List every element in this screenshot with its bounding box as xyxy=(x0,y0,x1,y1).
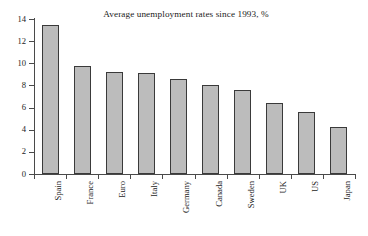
x-tick-label: Canada xyxy=(215,181,224,207)
x-tick-label: France xyxy=(86,181,95,204)
x-tick-mark xyxy=(130,175,131,179)
y-tick-mark xyxy=(29,63,34,64)
y-tick-mark xyxy=(29,130,34,131)
x-tick-mark xyxy=(66,175,67,179)
x-tick-label: Spain xyxy=(54,181,63,201)
x-tick-mark xyxy=(162,175,163,179)
bar xyxy=(234,90,251,174)
x-tick-label: US xyxy=(311,181,320,192)
bar xyxy=(298,112,315,174)
y-tick-label: 0 xyxy=(22,170,26,179)
x-tick-mark xyxy=(323,175,324,179)
y-tick-label: 2 xyxy=(22,147,26,156)
x-tick-label: Sweden xyxy=(247,181,256,208)
y-tick-label: 4 xyxy=(22,125,26,134)
y-tick-label: 14 xyxy=(17,15,26,24)
bar xyxy=(330,127,347,174)
bar-chart: Average unemployment rates since 1993, %… xyxy=(0,0,368,236)
y-axis-line xyxy=(34,18,35,175)
x-tick-mark xyxy=(355,175,356,179)
y-tick-mark xyxy=(29,41,34,42)
x-tick-mark xyxy=(98,175,99,179)
y-tick-mark xyxy=(29,108,34,109)
x-tick-mark xyxy=(34,175,35,179)
x-tick-label: UK xyxy=(279,181,288,193)
y-tick-mark xyxy=(29,85,34,86)
bar xyxy=(106,72,123,174)
y-tick-mark xyxy=(29,19,34,20)
bar xyxy=(202,85,219,174)
bar xyxy=(138,73,155,174)
x-tick-label: Italy xyxy=(150,181,159,197)
bar xyxy=(266,103,283,174)
bar xyxy=(42,25,59,174)
y-tick-label: 6 xyxy=(22,103,26,112)
x-tick-mark xyxy=(195,175,196,179)
y-tick-label: 12 xyxy=(17,37,26,46)
y-tick-mark xyxy=(29,152,34,153)
x-tick-mark xyxy=(259,175,260,179)
bar xyxy=(170,79,187,174)
bar xyxy=(74,66,91,175)
x-tick-mark xyxy=(227,175,228,179)
y-tick-label: 10 xyxy=(17,59,26,68)
x-tick-label: Euro xyxy=(118,181,127,198)
y-tick-label: 8 xyxy=(22,81,26,90)
x-tick-label: Germany xyxy=(182,181,191,213)
x-tick-mark xyxy=(291,175,292,179)
chart-title: Average unemployment rates since 1993, % xyxy=(56,9,316,19)
x-tick-label: Japan xyxy=(343,181,352,201)
